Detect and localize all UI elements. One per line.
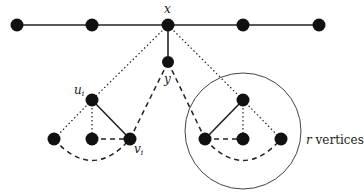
edge-y-vi — [130, 62, 168, 139]
edge-x-ui — [92, 25, 168, 100]
node-left-mid — [86, 133, 99, 146]
label-y: y — [163, 72, 171, 86]
edge-ui-left — [54, 100, 92, 139]
edge-right-top-left — [205, 100, 243, 139]
label-ui: ui — [74, 83, 85, 98]
label-ui-sub: i — [82, 89, 85, 98]
edge-x-right-top — [168, 25, 243, 100]
node-y — [162, 56, 174, 68]
label-vi-sub: i — [141, 148, 144, 157]
label-r-vertices: r vertices — [306, 133, 364, 147]
node-right-top — [237, 94, 250, 107]
node-right-right — [275, 133, 288, 146]
edge-y-right-left — [168, 62, 205, 139]
node-x — [162, 19, 175, 32]
label-x: x — [164, 2, 171, 16]
label-vertices: vertices — [312, 133, 364, 147]
node-top-2 — [86, 19, 99, 32]
node-right-mid — [237, 133, 250, 146]
label-ui-main: u — [74, 83, 82, 97]
node-top-5 — [313, 19, 326, 32]
edge-ui-vi — [92, 100, 130, 139]
node-top-1 — [11, 19, 24, 32]
edge-right-top-right — [243, 100, 281, 139]
node-left-left — [48, 133, 61, 146]
node-ui — [86, 94, 99, 107]
node-right-left — [199, 133, 212, 146]
node-top-4 — [237, 19, 250, 32]
r-vertices-circle — [185, 73, 301, 189]
label-vi: vi — [134, 142, 144, 157]
graph-diagram: x y ui vi r vertices — [0, 0, 364, 195]
